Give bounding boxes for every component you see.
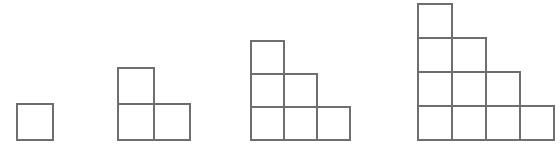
figure-4-square-c1-r3 (418, 38, 452, 72)
figure-2-square-c1-r2 (118, 68, 154, 104)
figure-4-shape (416, 2, 556, 142)
figure-3-square-c3-r1 (317, 107, 350, 140)
figure-4 (416, 2, 556, 142)
figure-1 (15, 102, 55, 142)
figure-1-square-c1-r1 (17, 104, 53, 140)
figure-4-square-c1-r1 (418, 106, 452, 140)
figure-4-square-c1-r2 (418, 72, 452, 106)
figure-2 (116, 66, 192, 142)
figure-3-shape (249, 39, 352, 142)
figure-2-square-c1-r1 (118, 104, 154, 140)
figure-3-square-c2-r1 (284, 107, 317, 140)
figure-4-square-c1-r4 (418, 4, 452, 38)
figure-3-square-c1-r1 (251, 107, 284, 140)
figure-4-square-c3-r2 (486, 72, 520, 106)
figure-2-shape (116, 66, 192, 142)
figure-4-square-c2-r1 (452, 106, 486, 140)
figure-4-square-c2-r2 (452, 72, 486, 106)
figure-3-square-c1-r2 (251, 74, 284, 107)
figure-4-square-c4-r1 (520, 106, 554, 140)
figure-2-square-c2-r1 (154, 104, 190, 140)
figure-sequence-canvas (0, 0, 560, 156)
figure-3 (249, 39, 352, 142)
figure-3-square-c1-r3 (251, 41, 284, 74)
figure-4-square-c2-r3 (452, 38, 486, 72)
figure-3-square-c2-r2 (284, 74, 317, 107)
figure-4-square-c3-r1 (486, 106, 520, 140)
figure-1-shape (15, 102, 55, 142)
